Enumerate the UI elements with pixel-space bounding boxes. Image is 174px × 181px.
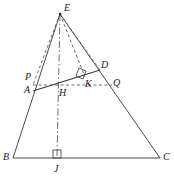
vertex-dot-E [59, 13, 62, 16]
vertex-dots [59, 13, 62, 16]
point-label-B: B [3, 152, 9, 162]
point-label-K: K [85, 79, 92, 89]
segment-cevian-EP [33, 14, 60, 85]
axis-line-EJ [57, 14, 60, 158]
point-label-D: D [101, 60, 108, 70]
segment-side-BE [13, 14, 60, 158]
point-label-E: E [64, 3, 70, 13]
point-label-H: H [59, 88, 66, 98]
segment-cevian-EK [60, 14, 85, 77]
dashed-construction-lines [33, 14, 112, 85]
segment-axis-EJ [57, 14, 60, 158]
segment-side-EC [60, 14, 160, 158]
point-label-P: P [25, 72, 31, 82]
point-label-Q: Q [113, 78, 120, 88]
geometry-figure: E D P Q K A H B J C [0, 0, 174, 181]
point-label-A: A [24, 85, 30, 95]
point-label-C: C [163, 152, 170, 162]
point-label-J: J [54, 164, 58, 174]
